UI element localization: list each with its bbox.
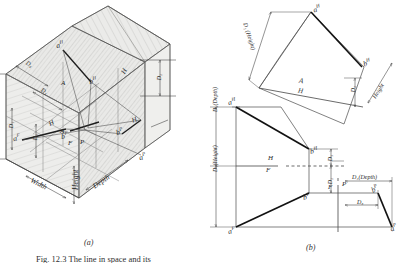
panel-b-dim-d4-depth-left: D₄(Depth) bbox=[212, 87, 218, 112]
panel-b-dim-d3-upper: D₃ bbox=[327, 155, 333, 161]
panel-b-fold-p-right-label: P bbox=[342, 181, 346, 188]
panel-b-fold-f-lower-label: F bbox=[266, 167, 270, 174]
figure-caption: Fig. 12.3 The line in space and its bbox=[36, 254, 151, 263]
panel-b-dim-d1-height-left: D₁(Height) bbox=[212, 145, 218, 172]
panel-b-profile-view bbox=[338, 193, 392, 227]
panel-b-point-b-frontal: bF bbox=[302, 191, 310, 201]
line-ab-auxiliary-view bbox=[311, 12, 362, 67]
panel-b-auxiliary-line-ab bbox=[311, 12, 362, 67]
panel-b-front-view bbox=[236, 149, 338, 227]
panel-b-drawing bbox=[0, 0, 406, 263]
panel-b-caption: (b) bbox=[306, 243, 315, 252]
fold-line-a-h bbox=[259, 88, 363, 107]
panel-b-point-a-frontal: aF bbox=[227, 225, 235, 235]
line-ab-profile-view bbox=[378, 193, 392, 227]
panel-b-dim-d4-depth-profile: D₄(Depth) bbox=[352, 174, 377, 180]
panel-b-profile-view-line-ab bbox=[378, 193, 392, 227]
figure-container: D₄ D₃ D₁ D₂ D₂ aH bH aF bF bP aP A H A H… bbox=[0, 0, 406, 263]
panel-b-fold-lines bbox=[236, 88, 363, 232]
panel-b-dim-d2-lower: D₂ bbox=[327, 178, 333, 184]
panel-b-fold-h-upper-label: H bbox=[268, 155, 273, 162]
panel-b-front-view-line-ab bbox=[236, 193, 309, 227]
panel-a-caption: (a) bbox=[84, 238, 93, 247]
panel-b-fold-f-left-label: F bbox=[328, 184, 332, 191]
panel-b-top-view-line-ab bbox=[236, 107, 309, 149]
panel-b-dimension-lines bbox=[210, 12, 392, 227]
aux-frame-right bbox=[344, 67, 364, 124]
line-ab-front-view bbox=[236, 193, 309, 227]
panel-b-point-a-horizontal: aH bbox=[227, 96, 236, 106]
panel-b-dim-d2-aux: D₂ bbox=[350, 86, 356, 92]
top-view-right-edge bbox=[281, 107, 309, 149]
panel-b-dim-d3-profile: D₃ bbox=[357, 199, 363, 205]
panel-b-point-b-horizontal: bH bbox=[309, 145, 318, 155]
line-ab-top-view bbox=[236, 107, 309, 149]
